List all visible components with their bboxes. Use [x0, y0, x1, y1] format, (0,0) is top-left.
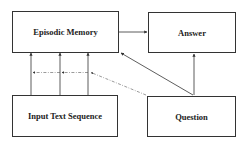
node-episodic-memory: Episodic Memory — [12, 11, 119, 53]
node-label: Question — [175, 112, 208, 122]
dashdot-question-diagonal — [91, 73, 146, 96]
node-label: Input Text Sequence — [28, 111, 102, 121]
node-label: Answer — [178, 28, 206, 38]
arrow-question-to-memory — [121, 53, 193, 95]
node-input-text-sequence: Input Text Sequence — [12, 95, 118, 137]
node-label: Episodic Memory — [33, 27, 97, 37]
node-answer: Answer — [148, 12, 236, 53]
node-question: Question — [147, 96, 236, 137]
